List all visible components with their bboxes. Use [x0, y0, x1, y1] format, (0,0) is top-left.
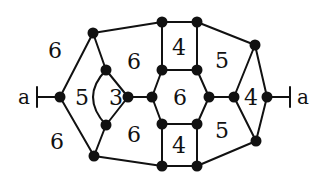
vertex-dot — [123, 92, 134, 103]
vertex-dot — [157, 161, 168, 172]
face-label: 6 — [48, 38, 62, 63]
end-label-right: a — [297, 85, 309, 109]
face-label: 6 — [50, 129, 64, 154]
face-label: 3 — [109, 85, 123, 110]
face-label: 6 — [173, 85, 187, 110]
vertex-dot — [157, 119, 168, 130]
vertex-dot — [250, 40, 261, 51]
face-label: 5 — [215, 118, 229, 143]
face-label: 5 — [215, 48, 229, 73]
face-label: 4 — [172, 35, 186, 60]
vertex-dot — [101, 65, 112, 76]
face-label: 5 — [75, 85, 89, 110]
graph-edge — [197, 141, 256, 166]
vertex-dot — [157, 65, 168, 76]
graph-edge — [93, 33, 106, 70]
vertex-dot — [204, 92, 215, 103]
face-label: 4 — [172, 133, 186, 158]
graph-canvas: 665366464554 a a — [0, 0, 324, 194]
vertex-dot — [251, 136, 262, 147]
vertex-dot — [192, 65, 203, 76]
vertex-dot — [147, 92, 158, 103]
vertex-dot — [192, 119, 203, 130]
vertex-dot — [192, 17, 203, 28]
vertex-dot — [157, 17, 168, 28]
vertex-dot — [88, 28, 99, 39]
face-label: 6 — [127, 49, 141, 74]
face-label: 6 — [127, 122, 141, 147]
vertex-dot — [229, 92, 240, 103]
vertex-dot — [55, 92, 66, 103]
vertex-dot — [89, 151, 100, 162]
vertex-dot — [101, 120, 112, 131]
graph-edge — [94, 156, 162, 166]
graph-edge — [197, 22, 255, 45]
planar-graph-diagram: 665366464554 a a — [0, 0, 324, 194]
graph-edge — [93, 22, 162, 33]
vertex-dot — [262, 92, 273, 103]
graph-curved-edge — [93, 70, 106, 125]
end-label-left: a — [18, 85, 30, 109]
vertex-dot — [192, 161, 203, 172]
face-label: 4 — [244, 85, 258, 110]
